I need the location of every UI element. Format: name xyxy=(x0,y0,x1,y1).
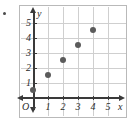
y-tick xyxy=(33,53,37,54)
y-tick-label: 2 xyxy=(21,63,31,73)
x-tick xyxy=(63,96,64,100)
y-axis xyxy=(33,12,35,110)
y-axis-label: y xyxy=(37,9,41,19)
data-point xyxy=(90,27,96,33)
x-tick-label: 5 xyxy=(102,102,114,112)
scatter-plot-figure: 1 2 3 4 5 5 4 3 2 1 O y x xyxy=(0,0,131,125)
origin-label: O xyxy=(22,102,29,112)
x-tick xyxy=(93,96,94,100)
y-tick-label: 5 xyxy=(21,18,31,28)
data-point xyxy=(45,72,51,78)
y-tick-label: 3 xyxy=(21,48,31,58)
y-axis-arrow-up-icon xyxy=(30,7,36,13)
x-tick-label: 1 xyxy=(42,102,54,112)
data-point xyxy=(30,87,36,93)
y-tick xyxy=(33,38,37,39)
y-axis-arrow-down-icon xyxy=(30,107,36,113)
x-axis xyxy=(22,97,120,99)
x-tick xyxy=(108,96,109,100)
y-tick xyxy=(33,83,37,84)
y-tick xyxy=(33,68,37,69)
plot-area: 1 2 3 4 5 5 4 3 2 1 O y x xyxy=(0,0,131,125)
data-point xyxy=(75,42,81,48)
data-point xyxy=(60,57,66,63)
y-tick-label: 4 xyxy=(21,33,31,43)
y-tick xyxy=(33,23,37,24)
x-tick-label: 4 xyxy=(87,102,99,112)
x-axis-arrow-right-icon xyxy=(119,95,125,101)
y-tick-label: 1 xyxy=(21,78,31,88)
x-tick-label: 2 xyxy=(57,102,69,112)
x-tick xyxy=(78,96,79,100)
x-tick xyxy=(48,96,49,100)
x-tick-label: 3 xyxy=(72,102,84,112)
x-axis-label: x xyxy=(118,102,122,112)
x-axis-arrow-left-icon xyxy=(17,95,23,101)
